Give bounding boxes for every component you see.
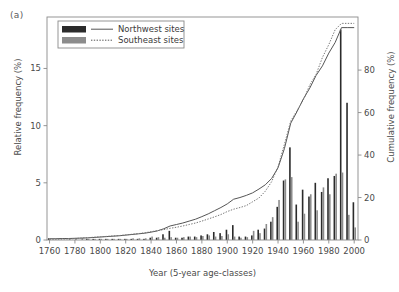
y2-tick-20: 20 [364,193,375,203]
bar-southeast-1900 [227,234,229,240]
bar-northwest-1880 [200,235,202,240]
x-tick-1760: 1760 [39,246,61,256]
bar-northwest-1930 [264,229,266,240]
y2-tick-80: 80 [364,65,375,75]
bar-northwest-1900 [226,230,228,240]
bar-southeast-1920 [253,231,255,240]
y2-tick-40: 40 [364,150,375,160]
bar-southeast-1995 [348,215,350,240]
bar-northwest-1920 [251,235,253,240]
bar-southeast-1905 [234,237,236,240]
bar-southeast-1840 [151,237,153,240]
bar-northwest-1945 [283,181,285,240]
x-tick-1940: 1940 [267,246,289,256]
bar-southeast-1895 [221,236,223,240]
bar-northwest-1875 [194,237,196,240]
figure-panel-a: (a) Relative frequency (%) Cumulative fr… [0,0,399,292]
bar-northwest-1975 [321,192,323,240]
x-tick-1840: 1840 [140,246,162,256]
bar-northwest-1955 [295,205,297,240]
bar-southeast-1960 [304,214,306,240]
y2-tick-60: 60 [364,108,375,118]
bar-northwest-1995 [346,103,348,240]
bar-northwest-1910 [238,237,240,240]
x-tick-2000: 2000 [343,246,365,256]
x-tick-1960: 1960 [293,246,315,256]
y2-tick-0: 0 [364,235,369,245]
legend-label-1: Southeast sites [118,35,184,45]
bar-southeast-1890 [215,237,217,240]
y-tick-10: 10 [30,121,41,131]
bar-northwest-2000 [353,202,355,240]
bar-southeast-1975 [323,187,325,240]
bar-northwest-1925 [257,230,259,240]
bar-northwest-1940 [276,207,278,240]
bar-southeast-1985 [335,174,337,240]
legend-layer: Northwest sitesSoutheast sites [58,21,185,48]
bar-southeast-1955 [297,222,299,240]
legend-swatch-1 [62,37,86,44]
bar-southeast-1945 [285,179,287,240]
bar-northwest-1990 [340,30,342,240]
legend-swatch-0 [62,26,86,33]
x-tick-1820: 1820 [115,246,137,256]
x-tick-1920: 1920 [242,246,264,256]
x-tick-1860: 1860 [166,246,188,256]
bar-southeast-1970 [316,210,318,240]
bar-northwest-1885 [207,234,209,240]
bar-southeast-1965 [310,194,312,240]
bar-northwest-1890 [213,232,215,240]
bar-northwest-1985 [334,176,336,240]
bar-northwest-1855 [169,231,171,240]
x-tick-1780: 1780 [64,246,86,256]
bar-northwest-1915 [245,237,247,240]
chart-canvas: 1760178018001820184018601880190019201940… [0,0,399,292]
bar-northwest-1950 [289,147,291,240]
bar-northwest-1980 [327,178,329,240]
y-tick-0: 0 [36,235,41,245]
x-tick-1880: 1880 [191,246,213,256]
x-tick-1800: 1800 [89,246,111,256]
y-tick-5: 5 [36,178,41,188]
bar-northwest-1935 [270,222,272,240]
bar-southeast-2000 [354,227,356,240]
bar-northwest-1905 [232,225,234,240]
bar-southeast-1990 [342,173,344,240]
bar-northwest-1965 [308,197,310,240]
bar-northwest-1960 [302,190,304,240]
bar-southeast-1930 [266,224,268,240]
legend-label-0: Northwest sites [118,24,185,34]
bar-northwest-1870 [188,237,190,240]
bar-southeast-1885 [208,235,210,240]
bars-layer [48,30,356,240]
bar-southeast-1880 [202,236,204,240]
bar-northwest-1850 [162,234,164,240]
bar-southeast-1950 [291,177,293,240]
bar-southeast-1935 [272,217,274,240]
bar-northwest-1895 [219,233,221,240]
x-tick-1980: 1980 [318,246,340,256]
y-tick-15: 15 [30,63,41,73]
bar-southeast-1870 [189,237,191,240]
bar-northwest-1970 [315,183,317,240]
x-tick-1900: 1900 [216,246,238,256]
bar-southeast-1980 [329,194,331,240]
bar-southeast-1940 [278,200,280,240]
bar-southeast-1925 [259,233,261,240]
